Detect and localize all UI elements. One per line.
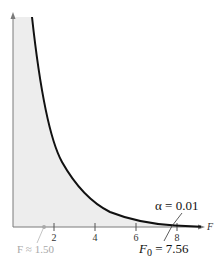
- tick-label-4: 4: [93, 232, 98, 243]
- y-axis-arrow-icon: [11, 12, 16, 19]
- f-stat-leader: [37, 229, 43, 243]
- f0-label: F0 = 7.56: [138, 241, 189, 258]
- tick-label-6: 6: [134, 232, 139, 243]
- shaded-area: [13, 17, 201, 227]
- f-stat-label: F ≈ 1.50: [17, 243, 54, 255]
- f-stat-point: [42, 225, 46, 229]
- alpha-label: α = 0.01: [155, 198, 198, 213]
- f0-leader: [164, 226, 172, 241]
- f-distribution-chart: 2 4 6 8 F α = 0.01 F0 = 7.56 F ≈ 1.50: [0, 0, 221, 271]
- tick-label-2: 2: [52, 232, 57, 243]
- x-axis-label: F: [206, 221, 214, 232]
